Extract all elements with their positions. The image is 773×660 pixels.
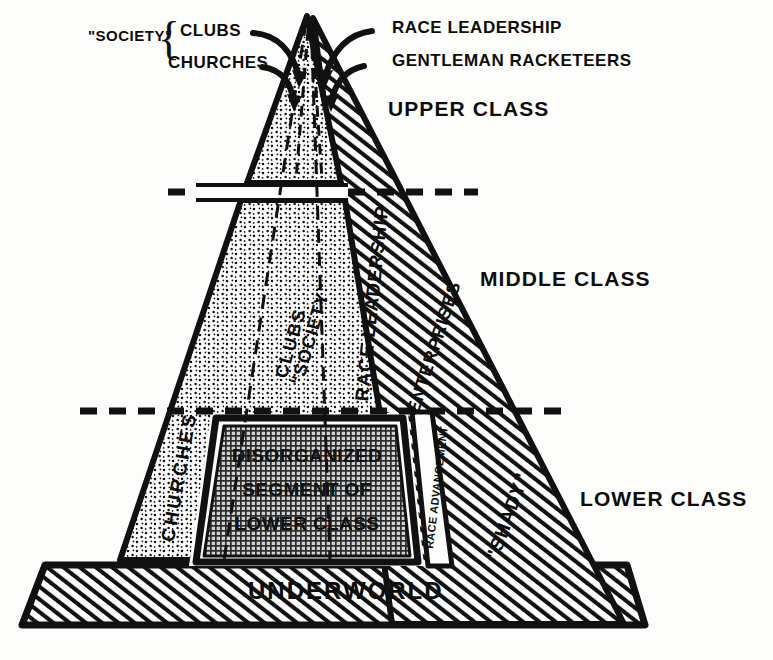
- class-label-upper: UPPER CLASS: [388, 98, 549, 120]
- upper-middle-slot: [196, 183, 348, 202]
- pyramid-diagram: "SOCIETY" { CLUBS CHURCHES RACE LEADERSH…: [0, 0, 773, 660]
- disorganized-box-line3: LOWER CLASS: [204, 512, 410, 536]
- disorganized-box-line1: DISORGANIZED: [204, 444, 410, 468]
- callout-gentleman-racketeers: GENTLEMAN RACKETEERS: [392, 52, 632, 70]
- callout-clubs: CLUBS: [180, 22, 241, 40]
- class-label-lower: LOWER CLASS: [580, 488, 747, 510]
- class-label-middle: MIDDLE CLASS: [480, 268, 651, 290]
- callout-churches: CHURCHES: [168, 54, 268, 72]
- underworld-label: UNDERWORLD: [248, 578, 444, 603]
- callout-race-leadership: RACE LEADERSHIP: [392, 19, 562, 37]
- diagram-canvas: [0, 0, 773, 660]
- disorganized-box-line2: SEGMENT OF: [204, 478, 410, 502]
